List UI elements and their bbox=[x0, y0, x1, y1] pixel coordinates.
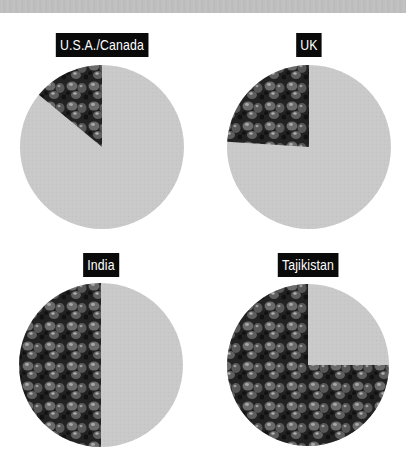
pie-title-u-s-a-canada: U.S.A./Canada bbox=[56, 33, 148, 57]
pie-highlight-slice-india bbox=[19, 283, 101, 447]
pie-charts bbox=[0, 0, 406, 466]
pie-highlight-slice-uk bbox=[227, 65, 309, 147]
pie-title-uk: UK bbox=[296, 33, 322, 57]
pie-title-india: India bbox=[83, 253, 119, 277]
pie-title-tajikistan: Tajikistan bbox=[278, 253, 338, 277]
